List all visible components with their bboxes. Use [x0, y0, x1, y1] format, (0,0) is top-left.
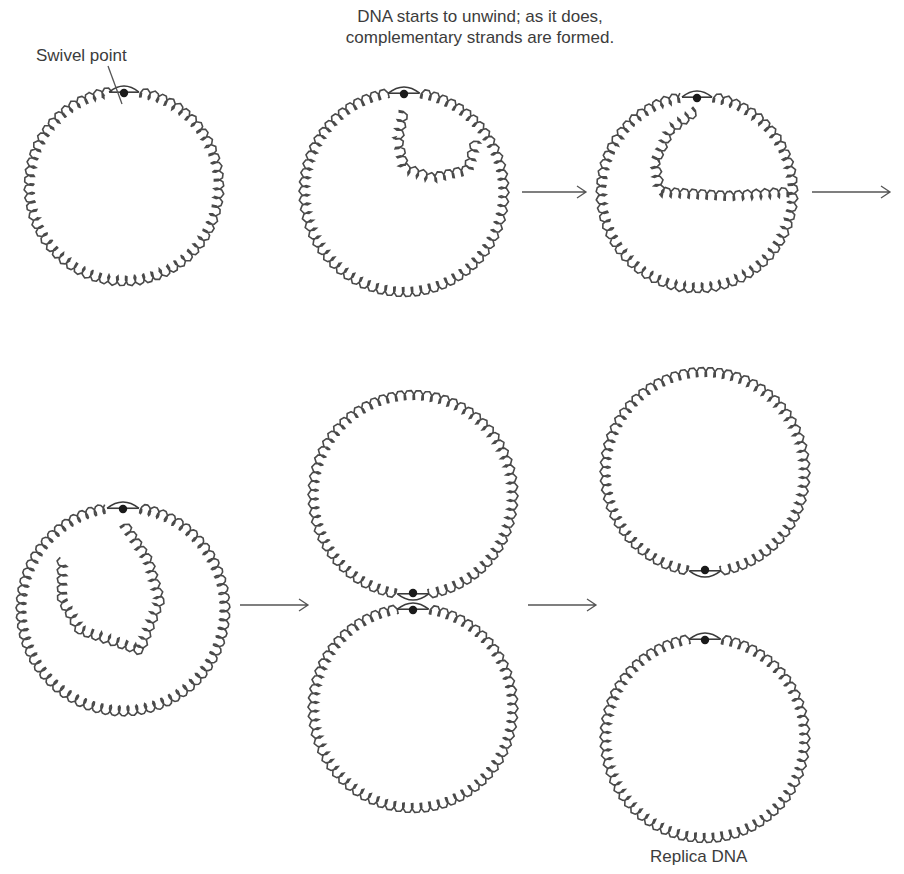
- stage5-lower-circle-swivel-point-dot: [409, 606, 417, 614]
- arrow-3-to-4: [240, 599, 308, 611]
- stage6-upper-replica-helix: [600, 368, 810, 575]
- swivel-pointer-line: [108, 66, 122, 104]
- stage6-lower-replica-helix: [600, 635, 810, 842]
- stage4-new-loop: [57, 524, 164, 654]
- dna-replication-diagram: [0, 0, 904, 874]
- stage3-circle-swivel-point-dot: [693, 94, 701, 102]
- stage1-circle-helix: [24, 88, 224, 285]
- stage2-new-loop: [393, 111, 480, 182]
- stage5-lower-circle-helix: [308, 605, 518, 812]
- arrow-1-to-2: [522, 186, 586, 198]
- stage4-circle-swivel-point-dot: [119, 505, 127, 513]
- arrow-2-to-3: [812, 186, 890, 198]
- stage2-circle-swivel-point-dot: [400, 90, 408, 98]
- arrow-4-to-5: [528, 599, 596, 611]
- stage5-upper-circle-helix: [308, 391, 518, 598]
- stage1-circle-swivel-point-dot: [120, 89, 128, 97]
- stage6-upper-replica-swivel-point-dot: [701, 566, 709, 574]
- stage4-circle-helix: [16, 505, 230, 716]
- stage5-upper-circle-swivel-point-dot: [409, 589, 417, 597]
- stage6-lower-replica-swivel-point-dot: [701, 636, 709, 644]
